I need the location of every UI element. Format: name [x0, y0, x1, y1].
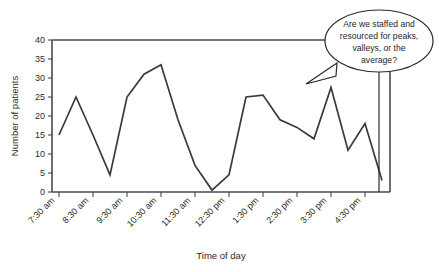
y-tick-label: 0: [40, 187, 45, 197]
bubble-text-line: valleys, or the: [352, 43, 405, 53]
bubble-text-line: resourced for peaks,: [340, 31, 418, 41]
y-tick-label: 10: [35, 149, 45, 159]
x-axis-title: Time of day: [196, 250, 246, 261]
x-tick-label: 8:30 am: [60, 195, 90, 225]
line-chart: 0 5 10 15 20 25 30 35 40 Number of patie…: [0, 0, 439, 272]
chart-page: 0 5 10 15 20 25 30 35 40 Number of patie…: [0, 0, 439, 272]
speech-bubble-tail: [306, 63, 337, 84]
x-tick-label: 7:30 am: [26, 195, 56, 225]
data-series-line: [59, 65, 382, 190]
y-tick-label: 35: [35, 54, 45, 64]
y-axis-tick-labels: 0 5 10 15 20 25 30 35 40: [35, 35, 45, 197]
y-tick-label: 5: [40, 168, 45, 178]
y-tick-label: 40: [35, 35, 45, 45]
y-tick-label: 30: [35, 73, 45, 83]
x-tick-label: 11:30 am: [159, 195, 192, 228]
x-tick-label: 9:30 am: [94, 195, 124, 225]
y-axis-title: Number of patients: [9, 76, 20, 157]
x-tick-label: 2:30 pm: [264, 195, 294, 225]
x-axis-tick-labels: 7:30 am 8:30 am 9:30 am 10:30 am 11:30 a…: [26, 195, 362, 229]
y-tick-label: 25: [35, 92, 45, 102]
y-tick-label: 15: [35, 130, 45, 140]
x-tick-label: 1:30 pm: [230, 195, 260, 225]
bubble-text-line: Are we staffed and: [343, 19, 415, 29]
x-tick-label: 12:30 pm: [193, 195, 227, 229]
y-tick-label: 20: [35, 111, 45, 121]
x-tick-label: 3:30 pm: [298, 195, 328, 225]
x-tick-label: 10:30 am: [125, 195, 159, 229]
bubble-text-line: average?: [361, 55, 397, 65]
x-tick-label: 4:30 pm: [332, 195, 362, 225]
